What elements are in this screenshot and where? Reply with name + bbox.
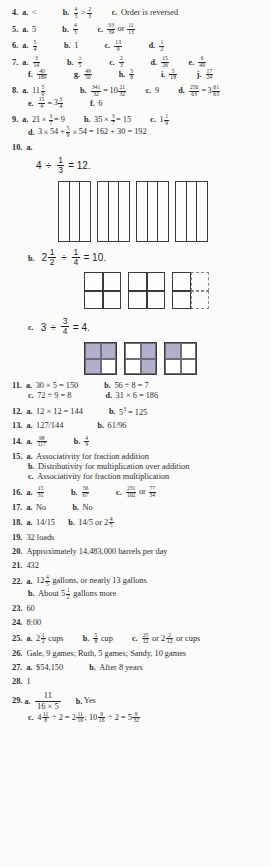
part-label-b: b. — [76, 697, 83, 707]
part-label-c: c. — [109, 58, 115, 67]
answer-item-8: 8. a. 1159 b. 34132=102132 c. 9 d. 25063… — [12, 85, 263, 110]
part-label-d: d. — [105, 391, 112, 400]
answer-19: 32 loads — [26, 533, 54, 543]
item-number: 14. — [12, 437, 22, 446]
answer-6c: 139 — [114, 40, 123, 52]
item-number: 12. — [12, 407, 22, 416]
part-label-c: c. — [98, 25, 104, 34]
answer-10c-equation: 3 ÷ 34 = 4. — [41, 322, 90, 333]
answer-item-28: 28. 1 — [12, 677, 263, 687]
answer-item-11: 11. a. 30 × 5 = 150 b. 56 ÷ 8 = 7 c. 72 … — [12, 381, 263, 401]
part-label-e: e. — [189, 58, 195, 67]
answer-11-row2: c. 72 ÷ 9 = 8 d. 31 × 6 = 186 — [12, 391, 263, 401]
answer-8d: 25063=36163 — [188, 85, 220, 97]
answer-11b: 56 ÷ 8 = 7 — [114, 381, 148, 391]
part-label-a: a. — [26, 452, 32, 461]
item-number: 7. — [12, 58, 18, 67]
answer-10a-body: 4 ÷ 13 = 12. — [12, 156, 263, 242]
part-label-b: b. — [64, 41, 71, 50]
part-label-a: a. — [26, 488, 32, 497]
item-number: 4. — [12, 8, 18, 17]
item-number: 15. — [12, 452, 22, 461]
answer-26: Gale, 9 games; Ruth, 5 games; Sandy, 10 … — [26, 649, 186, 659]
answer-17b: No — [83, 503, 93, 513]
answer-7j: 1724 — [205, 69, 214, 81]
answer-28: 1 — [26, 677, 30, 687]
part-label-b: b. — [68, 518, 75, 527]
answer-9b: 35×37= 15 — [94, 114, 131, 126]
part-label-c: c. — [112, 8, 118, 17]
answer-27b: After 8 years — [99, 663, 142, 673]
item-number: 5. — [12, 25, 18, 34]
answer-item-16: 16. a. 1531 b. 5667 c. 231102 or 7734 — [12, 486, 263, 498]
item-number: 17. — [12, 503, 22, 512]
item-number: 11. — [12, 381, 22, 390]
part-label-a: a. — [26, 634, 32, 643]
part-label-c: c. — [132, 634, 138, 643]
answer-15b: Distributivity for multiplication over a… — [38, 462, 189, 472]
answer-5a: 5 — [32, 25, 36, 35]
answer-5b: 43 — [72, 23, 78, 35]
answer-12a: 12 × 12 = 144 — [36, 407, 83, 417]
answer-15c: Associativity for fraction multiplicatio… — [37, 472, 169, 482]
answer-7-row2: f. 40189 g. 4950 h. 58 i. 518 j. 1724 — [12, 69, 263, 81]
part-label-b: b. — [104, 381, 111, 390]
square-quarters — [84, 272, 121, 309]
answer-10b-body: b. 212 ÷ 14 = 10. — [12, 248, 263, 310]
diagram-10a — [36, 181, 263, 242]
answer-item-20: 20. Approximately 14,483,000 barrels per… — [12, 547, 263, 557]
part-label-f: f. — [28, 70, 33, 79]
answer-8f: 6 — [98, 99, 102, 109]
answer-24: 8:00 — [26, 618, 41, 628]
part-label-b: b. — [28, 462, 35, 471]
part-label-b: b. — [62, 25, 69, 34]
item-number: 13. — [12, 421, 22, 430]
part-label-a: a. — [26, 663, 32, 672]
answer-15-row1: 15. a. Associativity for fraction additi… — [12, 452, 263, 462]
part-label-c: c. — [146, 86, 152, 95]
answer-6d: 12 — [159, 40, 165, 52]
answer-21: 432 — [26, 561, 38, 571]
diagram-10b — [28, 272, 263, 309]
answer-10b-equation: 212 ÷ 14 = 10. — [42, 252, 106, 263]
part-label-b: b. — [89, 663, 96, 672]
answer-17a: No — [36, 503, 46, 513]
part-label-d: d. — [28, 128, 35, 137]
answer-15-row3: c. Associativity for fraction multiplica… — [12, 472, 263, 482]
answer-item-5: 5. a. 5 b. 43 c. 3339 or 1113 — [12, 23, 263, 35]
square-shaded-3of4 — [84, 342, 117, 375]
item-number: 21. — [12, 561, 22, 570]
answer-16b: 5667 — [81, 486, 90, 498]
answer-13a: 127/144 — [36, 421, 63, 431]
answer-9a: 21×37= 9 — [32, 114, 65, 126]
answer-29-row1: 29. a. 11 16 × 5 b. Yes — [12, 691, 263, 712]
answer-4b: 43>23 — [73, 7, 93, 19]
answer-9c: 119 — [160, 114, 170, 126]
item-number: 26. — [12, 649, 22, 658]
answer-item-22: 22. a. 1245 gallons, or nearly 13 gallon… — [12, 575, 263, 600]
answer-7e: 649 — [198, 56, 207, 68]
answer-item-6: 6. a. 54 b. 1 c. 139 d. 12 — [12, 40, 263, 52]
answer-7i: 518 — [169, 69, 178, 81]
part-label-c: c. — [28, 472, 34, 481]
answer-10c-body: c. 3 ÷ 34 = 4. — [12, 317, 263, 375]
answer-12b: 53 = 125 — [119, 406, 147, 418]
part-label-b: b. — [97, 421, 104, 430]
part-label-d: d. — [149, 41, 156, 50]
answer-item-9: 9. a. 21×37= 9 b. 35×37= 15 c. 119 d. 3×… — [12, 114, 263, 139]
answer-10a-equation: 4 ÷ 13 = 12. — [36, 156, 263, 175]
part-label-a: a. — [22, 41, 28, 50]
item-number: 27. — [12, 663, 22, 672]
rect-thirds — [58, 181, 91, 242]
answer-15a: Associativity for fraction addition — [36, 452, 149, 462]
answer-item-4: 4. a. < b. 43>23 c. Order is reversed — [12, 7, 263, 19]
answer-11c: 72 ÷ 9 = 8 — [37, 391, 71, 401]
answer-7h: 58 — [129, 69, 135, 81]
answer-item-19: 19. 32 loads — [12, 533, 263, 543]
item-number: 10. — [12, 143, 22, 152]
answer-25a: 212 cups — [36, 633, 63, 645]
rect-thirds — [97, 181, 130, 242]
answer-14a: 98117 — [36, 436, 47, 448]
part-label-a: a. — [22, 25, 28, 34]
part-label-c: c. — [28, 324, 34, 333]
